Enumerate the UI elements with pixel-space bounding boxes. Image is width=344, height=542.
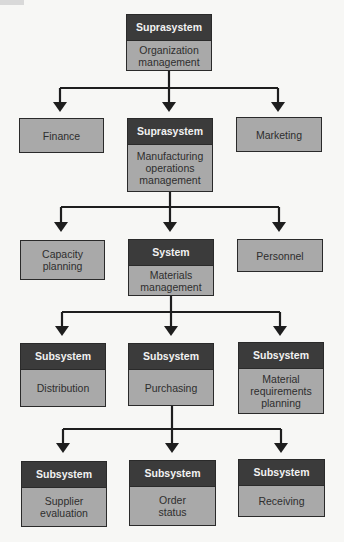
node-label: Order status — [130, 487, 215, 525]
arrow-icon — [53, 102, 67, 112]
arrow-icon — [56, 443, 70, 453]
node-label: Marketing — [237, 118, 321, 151]
node-header: Suprasystem — [128, 119, 212, 145]
node-header: Subsystem — [130, 461, 215, 487]
node-header: System — [129, 240, 213, 266]
node-finance: Finance — [19, 118, 104, 153]
node-distribution: Subsystem Distribution — [20, 343, 106, 407]
node-label: Manufacturing operations management — [128, 145, 212, 191]
node-label: Materials management — [129, 266, 213, 295]
node-label: Supplier evaluation — [22, 488, 106, 526]
node-header: Subsystem — [21, 344, 105, 370]
node-header: Subsystem — [22, 462, 106, 488]
node-marketing: Marketing — [236, 117, 322, 152]
arrow-icon — [272, 222, 286, 232]
arrow-icon — [55, 326, 69, 336]
node-label: Capacity planning — [21, 241, 104, 279]
node-label: Material requirements planning — [239, 369, 323, 413]
arrow-icon — [164, 326, 178, 336]
node-header: Subsystem — [239, 460, 324, 486]
arrow-icon — [274, 443, 288, 453]
node-material-requirements-planning: Subsystem Material requirements planning — [238, 342, 324, 414]
node-receiving: Subsystem Receiving — [238, 459, 325, 517]
node-manufacturing-operations-management: Suprasystem Manufacturing operations man… — [127, 118, 213, 192]
node-order-status: Subsystem Order status — [129, 460, 216, 526]
arrow-icon — [165, 443, 179, 453]
node-header: Suprasystem — [127, 15, 211, 41]
node-header: Subsystem — [239, 343, 323, 369]
arrow-icon — [163, 222, 177, 232]
node-personnel: Personnel — [237, 239, 323, 272]
node-label: Purchasing — [129, 370, 213, 405]
node-label: Finance — [20, 119, 103, 152]
arrow-icon — [271, 102, 285, 112]
node-label: Personnel — [238, 240, 322, 271]
arrow-icon — [273, 326, 287, 336]
node-label: Distribution — [21, 370, 105, 406]
arrow-icon — [54, 222, 68, 232]
node-materials-management: System Materials management — [128, 239, 214, 296]
node-purchasing: Subsystem Purchasing — [128, 343, 214, 406]
node-organization-management: Suprasystem Organization management — [126, 14, 212, 71]
node-header: Subsystem — [129, 344, 213, 370]
node-label: Receiving — [239, 486, 324, 516]
node-label: Organization management — [127, 41, 211, 70]
node-supplier-evaluation: Subsystem Supplier evaluation — [21, 461, 107, 527]
node-capacity-planning: Capacity planning — [20, 240, 105, 280]
arrow-icon — [162, 102, 176, 112]
